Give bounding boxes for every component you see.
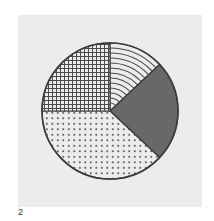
pie-slice-grid <box>42 43 110 111</box>
pie-chart <box>0 0 214 221</box>
figure-number-label: 2 <box>18 207 23 217</box>
